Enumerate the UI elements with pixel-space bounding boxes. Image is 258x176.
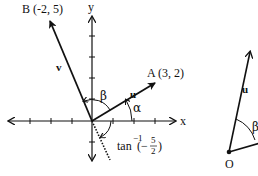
angle-alpha-arc [126,100,132,121]
vector-u-right [229,52,250,152]
origin-label: O [225,157,234,171]
angle-alpha-label: α [133,101,141,115]
dashed-ray [92,121,110,160]
angle-beta-label: β [100,89,107,103]
y-axis-label: y [88,0,94,14]
left-diagram: x y B (-2, 5) A (3, 2) v u α β tan −1 (−… [9,0,186,160]
y-axis [89,17,95,160]
vector-v-label: v [56,61,62,73]
vector-u-label: u [130,88,136,100]
x-axis-label: x [180,114,186,128]
svg-text:5: 5 [151,135,156,145]
point-b-label: B (-2, 5) [22,2,63,16]
vector-u-right-label: u [242,83,248,95]
svg-text:): ) [158,139,162,153]
right-diagram: O u β [225,52,258,171]
second-vector-right [229,143,258,152]
point-a-label: A (3, 2) [147,66,184,80]
angle-tan-arc [101,121,111,137]
origin-point [227,150,232,155]
svg-text:2: 2 [151,146,156,156]
vector-angle-figure: x y B (-2, 5) A (3, 2) v u α β tan −1 (−… [0,0,258,176]
angle-tan-label: tan −1 (− 5 2 ) [117,133,162,156]
angle-beta-right-label: β [252,120,258,134]
svg-text:tan: tan [117,139,132,153]
svg-text:(−: (− [137,139,148,153]
